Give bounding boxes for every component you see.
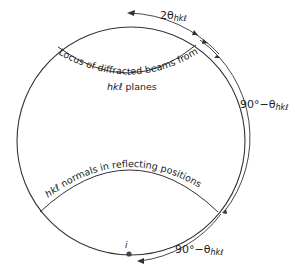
top-angle-label: 2θhkℓ [160, 9, 187, 23]
point-i-marker [126, 251, 131, 256]
primitive-circle [17, 27, 245, 255]
locus-label: Locus of diffracted beams from [57, 45, 199, 76]
right-angle-label: 90°−θhkℓ [240, 98, 288, 112]
stereographic-diagram: i 2θhkℓ 90°−θhkℓ 90°−θhkℓ Locus of diffr… [0, 0, 297, 269]
normals-label: hkℓ normals in reflecting positions [43, 158, 204, 200]
locus-label-line2: hkℓ planes [107, 81, 157, 92]
bottom-angle-label: 90°−θhkℓ [175, 243, 223, 257]
arrow-left-head [127, 10, 135, 16]
outer-arc-right [200, 40, 250, 212]
arrow-bottom-left-head [137, 258, 144, 264]
point-i-label: i [125, 240, 128, 250]
